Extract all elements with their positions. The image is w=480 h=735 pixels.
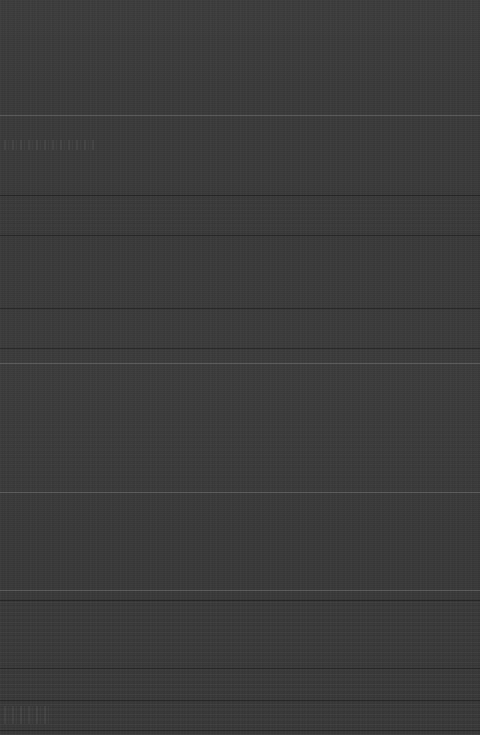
- faint-banding-region: [0, 196, 480, 236]
- horizontal-divider-light: [0, 363, 480, 364]
- horizontal-rule-dark: [0, 730, 480, 731]
- faint-banding-region: [0, 669, 480, 735]
- horizontal-rule-dark: [0, 600, 480, 601]
- horizontal-rule-dark: [0, 348, 480, 349]
- horizontal-divider-light: [0, 590, 480, 591]
- horizontal-rule-dark: [0, 700, 480, 701]
- faint-banding-region: [0, 600, 480, 668]
- noise-grain-overlay: [0, 0, 480, 735]
- illegible-text-smudge: [4, 140, 96, 150]
- dark-surface-canvas: [0, 0, 480, 735]
- faint-banding-region: [0, 420, 480, 490]
- horizontal-rule-dark: [0, 668, 480, 669]
- horizontal-rule-dark: [0, 235, 480, 236]
- tonal-gradient-overlay: [0, 0, 480, 735]
- horizontal-divider-light: [0, 115, 480, 116]
- horizontal-divider-light: [0, 492, 480, 493]
- horizontal-rule-dark: [0, 308, 480, 309]
- horizontal-rule-dark: [0, 195, 480, 196]
- illegible-text-smudge: [4, 706, 50, 724]
